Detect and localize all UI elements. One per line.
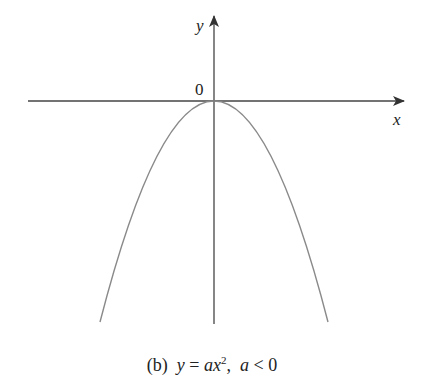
caption-condition-var: a	[240, 355, 249, 375]
caption-equals: =	[185, 355, 204, 375]
origin-label: 0	[195, 80, 204, 99]
caption-condition: < 0	[249, 355, 277, 375]
figure-caption: (b) y = ax2, a < 0	[0, 354, 424, 376]
caption-separator: ,	[227, 355, 236, 375]
caption-panel-label: (b)	[147, 355, 168, 375]
caption-lhs: y	[177, 355, 185, 375]
x-axis-label: x	[392, 110, 401, 129]
y-axis-label: y	[194, 16, 204, 35]
caption-rhs: ax	[204, 355, 221, 375]
parabola-diagram: y x 0	[0, 0, 424, 391]
